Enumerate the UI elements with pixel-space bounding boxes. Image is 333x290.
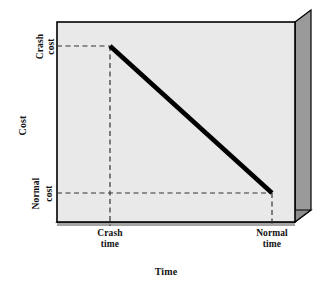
plot-box-right-panel — [295, 10, 311, 222]
y-tick-crash-cost-line2: cost — [46, 25, 57, 69]
time-cost-tradeoff-chart: Cost Crash cost Normal cost Crash time N… — [0, 0, 333, 290]
x-tick-normal-time: Normal time — [237, 228, 307, 250]
x-tick-normal-time-line1: Normal — [237, 228, 307, 239]
x-tick-crash-time: Crash time — [75, 228, 145, 250]
x-tick-normal-time-line2: time — [237, 239, 307, 250]
y-tick-normal-cost-line1: Normal — [31, 168, 42, 220]
x-tick-crash-time-line2: time — [75, 239, 145, 250]
y-tick-normal-cost-line2: cost — [44, 168, 55, 220]
x-axis-title: Time — [131, 266, 201, 277]
y-tick-crash-cost-line1: Crash — [35, 25, 46, 69]
x-tick-crash-time-line1: Crash — [75, 228, 145, 239]
y-axis-title: Cost — [17, 102, 28, 150]
plot-area — [57, 22, 295, 222]
